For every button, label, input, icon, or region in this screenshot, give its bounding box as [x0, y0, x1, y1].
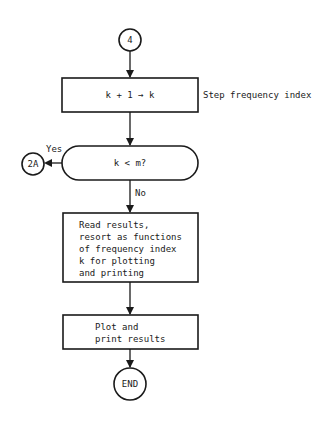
read-line-4: k for plotting — [79, 256, 155, 266]
arrowhead-icon — [126, 307, 134, 315]
read-line-5: and printing — [79, 268, 144, 278]
yes-connector: 2A — [22, 153, 44, 175]
start-connector: 4 — [119, 29, 141, 51]
arrowhead-icon — [126, 205, 134, 213]
start-connector-label: 4 — [127, 35, 132, 45]
end-label: END — [122, 379, 138, 389]
yes-connector-label: 2A — [28, 159, 39, 169]
no-label: No — [135, 188, 146, 198]
decision-label: k < m? — [114, 158, 147, 168]
read-line-1: Read results, — [79, 220, 149, 230]
decision-shape: k < m? — [62, 146, 198, 180]
step-box: k + 1 → k — [62, 78, 198, 112]
arrowhead-icon — [126, 138, 134, 146]
arrowhead-icon — [44, 159, 52, 167]
yes-label: Yes — [46, 144, 62, 154]
read-line-2: resort as functions — [79, 232, 182, 242]
plot-line-1: Plot and — [95, 322, 138, 332]
end-terminal: END — [114, 368, 146, 400]
arrowhead-icon — [126, 70, 134, 78]
arrowhead-icon — [126, 360, 134, 368]
plot-results-box: Plot and print results — [63, 315, 198, 349]
step-annotation: Step frequency index — [203, 90, 312, 100]
flowchart: 4 k + 1 → k Step frequency index k < m? … — [0, 0, 334, 427]
read-results-box: Read results, resort as functions of fre… — [63, 213, 198, 282]
step-box-label: k + 1 → k — [106, 90, 155, 100]
read-line-3: of frequency index — [79, 244, 177, 254]
plot-line-2: print results — [95, 334, 165, 344]
